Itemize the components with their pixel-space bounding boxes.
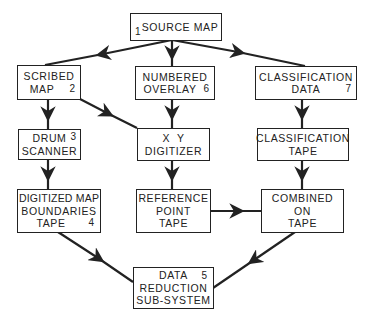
node-scribed-map: SCRIBED MAP 2 xyxy=(17,65,81,100)
node-number: 4 xyxy=(88,217,94,230)
node-label: COMBINED xyxy=(272,192,333,205)
node-label: TAPE xyxy=(288,217,317,230)
node-numbered-overlay: NUMBERED OVERLAY 6 xyxy=(135,66,215,100)
node-label: SOURCE MAP xyxy=(142,21,219,34)
node-number: 7 xyxy=(345,83,351,96)
node-reference-point-tape: REFERENCE POINT TAPE xyxy=(136,189,211,233)
node-label: DATA xyxy=(292,83,321,96)
node-label: DATA xyxy=(159,269,188,282)
node-label: CLASSIFICATION xyxy=(259,71,353,84)
node-label: ON xyxy=(294,205,311,218)
node-label: CLASSIFICATION xyxy=(256,132,350,145)
node-label: POINT xyxy=(156,205,191,218)
node-label: REFERENCE xyxy=(138,192,208,205)
node-label: TAPE xyxy=(36,217,65,230)
node-label: DIGITIZED MAP xyxy=(19,192,99,205)
node-number: 1 xyxy=(135,26,141,39)
node-number: 2 xyxy=(69,83,75,96)
node-label: BOUNDARIES xyxy=(21,205,96,218)
edge-scribed-to-xy xyxy=(80,99,137,128)
node-label: DRUM xyxy=(33,132,67,145)
edge-source-to-scribed xyxy=(45,40,172,65)
node-number: 3 xyxy=(70,131,76,144)
edge-combined-to-reduction xyxy=(213,232,295,288)
node-combined-on-tape: COMBINED ON TAPE xyxy=(261,189,344,233)
edge-digitized-to-reduction xyxy=(58,232,133,282)
node-data-reduction-sub-system: DATA REDUCTION SUB-SYSTEM 5 xyxy=(133,267,214,309)
node-classification-tape: CLASSIFICATION TAPE xyxy=(257,128,349,161)
node-drum-scanner: DRUM SCANNER 3 xyxy=(18,129,81,160)
node-xy-digitizer: X Y DIGITIZER xyxy=(137,128,210,161)
node-source-map: SOURCE MAP 1 xyxy=(130,13,222,41)
node-label: X Y xyxy=(162,132,184,145)
node-label: OVERLAY xyxy=(143,83,196,96)
node-label: NUMBERED xyxy=(143,71,208,84)
node-classification-data: CLASSIFICATION DATA 7 xyxy=(255,66,357,100)
node-label: SCRIBED xyxy=(24,70,75,83)
node-label: TAPE xyxy=(288,145,317,158)
node-label: DIGITIZER xyxy=(145,145,202,158)
node-label: MAP xyxy=(30,83,55,96)
node-digitized-map-boundaries-tape: DIGITIZED MAP BOUNDARIES TAPE 4 xyxy=(17,189,101,233)
node-label: SUB-SYSTEM xyxy=(136,294,210,307)
edge-source-to-classdata xyxy=(172,40,305,66)
node-label: TAPE xyxy=(159,217,188,230)
node-number: 5 xyxy=(201,270,207,283)
node-label: REDUCTION xyxy=(140,282,208,295)
node-number: 6 xyxy=(203,83,209,96)
node-label: SCANNER xyxy=(22,145,78,158)
